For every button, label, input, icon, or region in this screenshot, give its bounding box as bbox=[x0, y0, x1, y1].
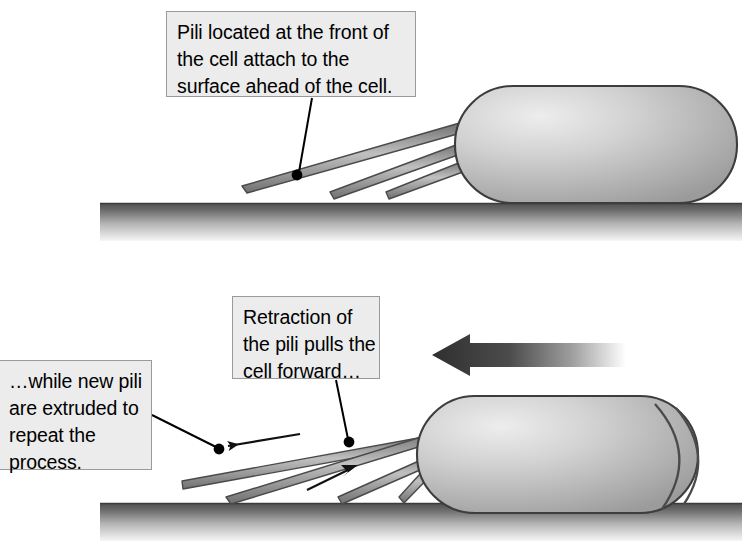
extrusion-arrow bbox=[228, 434, 300, 446]
callout-line: the cell attach to the bbox=[177, 46, 406, 73]
direction-arrow bbox=[432, 334, 626, 376]
callout-line: are extruded to bbox=[9, 395, 142, 422]
callout-line: repeat the bbox=[9, 422, 142, 449]
callout-extrusion: …while new pili are extruded to repeat t… bbox=[0, 360, 152, 470]
panel-bottom-graphics bbox=[100, 334, 742, 541]
callout-line: Retraction of bbox=[243, 304, 370, 331]
callout-line: surface ahead of the cell. bbox=[177, 73, 406, 100]
pili-group-bottom bbox=[182, 430, 452, 504]
callout-line: process. bbox=[9, 449, 142, 476]
panel-top-graphics bbox=[100, 86, 742, 241]
callout-retraction: Retraction of the pili pulls the cell fo… bbox=[232, 296, 380, 379]
callout-line: …while new pili bbox=[9, 368, 142, 395]
bacterial-cell-bottom bbox=[417, 396, 698, 513]
surface-bar-top bbox=[100, 203, 742, 241]
callout-line: Pili located at the front of bbox=[177, 19, 406, 46]
callout-attachment: Pili located at the front of the cell at… bbox=[166, 11, 416, 97]
callout-line: cell forward… bbox=[243, 358, 370, 385]
callout-line: the pili pulls the bbox=[243, 331, 370, 358]
pili-group-top bbox=[242, 122, 471, 199]
bacterial-cell-top bbox=[455, 86, 737, 203]
leader-line-box3 bbox=[152, 415, 224, 454]
figure-canvas: Pili located at the front of the cell at… bbox=[0, 0, 742, 552]
